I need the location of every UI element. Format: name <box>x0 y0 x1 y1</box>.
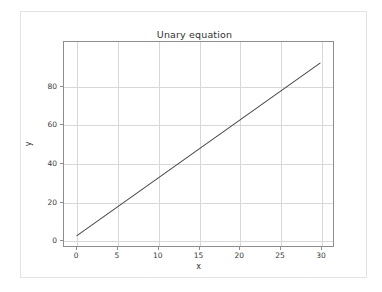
y-axis-label: y <box>24 142 33 147</box>
x-axis-label: x <box>63 262 334 271</box>
y-tick-mark <box>60 202 63 203</box>
y-tick-label: 80 <box>47 81 57 90</box>
series-line-unary-equation <box>77 63 320 236</box>
x-tick-label: 25 <box>275 251 285 260</box>
x-tick-label: 30 <box>316 251 326 260</box>
x-tick-mark <box>76 247 77 250</box>
x-tick-label: 0 <box>74 251 79 260</box>
chart-title: Unary equation <box>21 29 368 40</box>
y-tick-label: 40 <box>47 158 57 167</box>
y-tick-label: 0 <box>52 236 57 245</box>
x-tick-mark <box>199 247 200 250</box>
y-tick-label: 20 <box>47 197 57 206</box>
figure-card: Unary equation 051015202530 020406080 x … <box>20 11 367 278</box>
plot-area <box>63 41 334 247</box>
y-tick-label: 60 <box>47 120 57 129</box>
x-tick-mark <box>239 247 240 250</box>
y-tick-mark <box>60 86 63 87</box>
x-tick-label: 20 <box>235 251 245 260</box>
x-tick-mark <box>158 247 159 250</box>
x-tick-label: 15 <box>194 251 204 260</box>
x-tick-mark <box>280 247 281 250</box>
y-tick-mark <box>60 163 63 164</box>
x-tick-label: 10 <box>153 251 163 260</box>
y-tick-mark <box>60 240 63 241</box>
data-line-layer <box>64 42 333 246</box>
x-tick-mark <box>117 247 118 250</box>
x-tick-mark <box>321 247 322 250</box>
y-tick-mark <box>60 124 63 125</box>
x-tick-label: 5 <box>114 251 119 260</box>
